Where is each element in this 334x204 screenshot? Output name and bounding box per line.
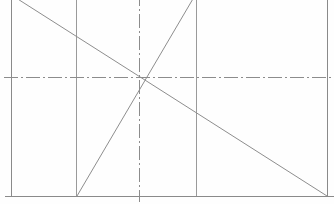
canvas-background [0, 0, 334, 204]
drawing-canvas [0, 0, 334, 204]
line-drawing-svg [0, 0, 334, 204]
